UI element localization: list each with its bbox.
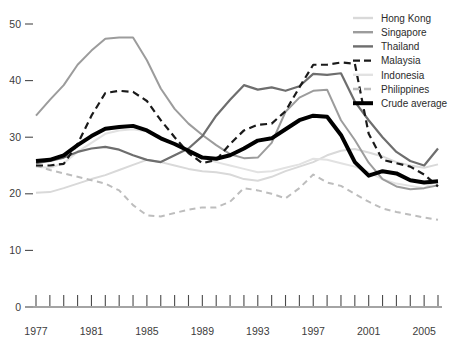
x-tick-label: 1997 [302,325,326,337]
legend-label: Indonesia [381,70,425,81]
legend-label: Hong Kong [381,13,431,24]
legend-label: Thailand [381,41,419,52]
y-tick-label: 10 [9,244,21,256]
y-tick-label: 50 [9,18,21,30]
legend-label: Crude average [381,98,448,109]
y-tick-label: 0 [15,301,21,313]
x-tick-label: 1993 [246,325,270,337]
chart-canvas: 01020304050 1977198119851989199319972001… [0,0,449,342]
legend-label: Singapore [381,27,427,38]
y-tick-label: 30 [9,131,21,143]
x-tick-label: 1977 [24,325,48,337]
legend-label: Malaysia [381,55,421,66]
y-tick-label: 20 [9,187,21,199]
x-tick-label: 1985 [135,325,159,337]
x-tick-label: 1981 [80,325,104,337]
line-chart: 01020304050 1977198119851989199319972001… [0,0,449,342]
x-tick-label: 2001 [357,325,381,337]
legend-label: Philippines [381,84,429,95]
x-tick-label: 1989 [191,325,215,337]
y-tick-label: 40 [9,74,21,86]
x-tick-label: 2005 [412,325,436,337]
